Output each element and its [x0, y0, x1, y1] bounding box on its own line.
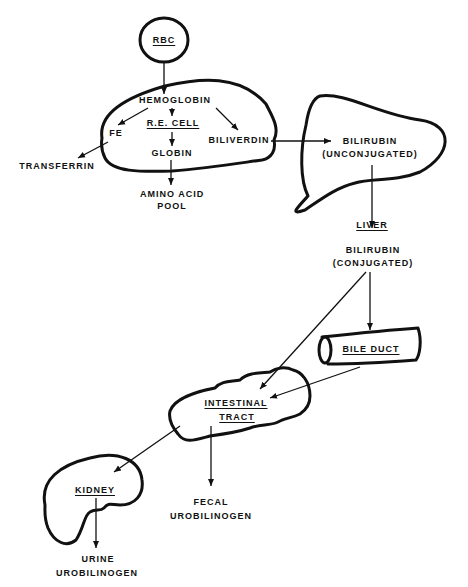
- arrow-hemoglobin-fe: [118, 108, 148, 125]
- label-liver: LIVER: [352, 219, 392, 231]
- label-intestinal: INTESTINAL: [198, 397, 274, 409]
- arrow-hemoglobin-biliverdin: [216, 108, 238, 130]
- label-bilirubin-conjugated: BILIRUBIN: [340, 244, 406, 256]
- arrow-bileduct-intestinal: [270, 367, 360, 398]
- label-hemoglobin: HEMOGLOBIN: [135, 94, 215, 106]
- label-biliverdin: BILIVERDIN: [204, 134, 274, 146]
- arrow-liver-intestinal: [260, 272, 366, 389]
- label-fe: FE: [106, 127, 126, 139]
- diagram-shapes: [0, 0, 468, 587]
- label-tract: TRACT: [215, 411, 259, 423]
- bilirubin-metabolism-diagram: RBC HEMOGLOBIN R.E. CELL FE GLOBIN BILIV…: [0, 0, 468, 587]
- label-bilirubin-unconjugated: BILIRUBIN: [335, 135, 405, 147]
- kidney-shape: [44, 455, 142, 543]
- label-re-cell: R.E. CELL: [145, 117, 201, 129]
- label-transferrin: TRANSFERRIN: [17, 160, 97, 172]
- bile-duct-opening: [319, 337, 331, 363]
- label-fecal: FECAL: [188, 496, 234, 508]
- label-bile-duct: BILE DUCT: [335, 343, 407, 355]
- label-fecal-urobilinogen: UROBILINOGEN: [168, 510, 254, 522]
- label-globin: GLOBIN: [148, 147, 196, 159]
- label-amino-acid: AMINO ACID: [140, 188, 204, 200]
- label-urine: URINE: [78, 553, 118, 565]
- label-unconjugated: (UNCONJUGATED): [322, 148, 418, 160]
- label-conjugated: (CONJUGATED): [330, 257, 416, 269]
- label-rbc: RBC: [149, 34, 179, 46]
- label-urine-urobilinogen: UROBILINOGEN: [54, 567, 140, 579]
- arrow-intestinal-kidney: [114, 426, 180, 472]
- label-kidney: KIDNEY: [72, 484, 118, 496]
- label-pool: POOL: [150, 200, 194, 212]
